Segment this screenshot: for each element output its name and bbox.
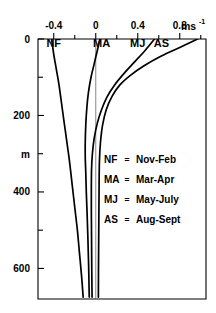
- y-tick-label: 400: [13, 186, 30, 197]
- x-axis-tick-labels: -0.400.40.8: [45, 20, 187, 31]
- legend-expansion-nf: Nov-Feb: [136, 154, 176, 165]
- x-axis-unit-exponent: -1: [199, 18, 205, 25]
- legend: NF=Nov-FebMA=Mar-AprMJ=May-JulyAS=Aug-Se…: [104, 154, 181, 225]
- y-tick-label: 0: [24, 34, 30, 45]
- legend-expansion-mj: May-July: [136, 194, 179, 205]
- legend-separator: =: [125, 215, 130, 225]
- x-axis-unit: ms -1: [181, 18, 205, 32]
- legend-separator: =: [125, 155, 130, 165]
- curve-tag-ma: MA: [93, 37, 110, 49]
- y-axis-title: m: [21, 149, 30, 160]
- profile-curve-nf: [52, 39, 84, 297]
- legend-abbr-mj: MJ: [104, 194, 118, 205]
- x-tick-label: 0.4: [131, 20, 145, 31]
- x-tick-label: 0: [93, 20, 99, 31]
- chart-canvas: -0.400.40.8 0200400600 m ms -1 NFMAMJAS …: [0, 0, 216, 313]
- profile-curve-mj: [91, 39, 154, 297]
- y-tick-label: 600: [13, 263, 30, 274]
- profile-curves: [52, 39, 198, 297]
- x-axis-unit-base: ms: [181, 20, 196, 32]
- x-axis-ticks: [54, 33, 201, 39]
- y-tick-label: 200: [13, 110, 30, 121]
- legend-expansion-as: Aug-Sept: [136, 214, 181, 225]
- legend-abbr-as: AS: [104, 214, 118, 225]
- velocity-depth-profile-figure: -0.400.40.8 0200400600 m ms -1 NFMAMJAS …: [0, 0, 216, 313]
- legend-abbr-nf: NF: [104, 154, 117, 165]
- curve-tag-nf: NF: [46, 37, 61, 49]
- curve-tag-as: AS: [154, 37, 169, 49]
- plot-frame: [38, 39, 206, 299]
- legend-separator: =: [125, 195, 130, 205]
- curve-tag-mj: MJ: [130, 37, 145, 49]
- x-tick-label: -0.4: [45, 20, 63, 31]
- legend-expansion-ma: Mar-Apr: [136, 174, 174, 185]
- y-axis-ticks: [38, 39, 44, 268]
- profile-curve-as: [98, 39, 197, 297]
- legend-separator: =: [125, 175, 130, 185]
- legend-abbr-ma: MA: [104, 174, 120, 185]
